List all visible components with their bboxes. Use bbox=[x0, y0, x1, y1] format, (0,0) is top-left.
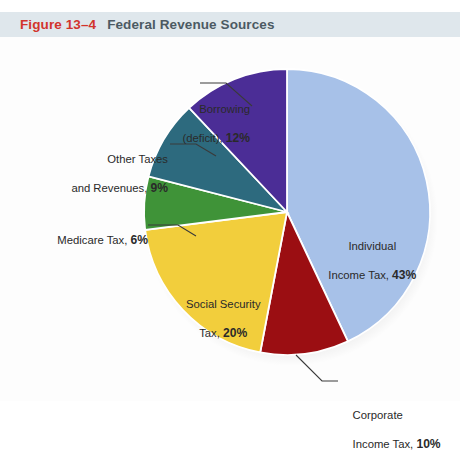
slice-label-individual-line2: Income Tax, bbox=[328, 269, 392, 281]
slice-value-borrowing: 12% bbox=[226, 131, 250, 145]
slice-label-individual-line1: Individual bbox=[348, 240, 396, 252]
pie-chart: Borrowing (deficit), 12% Other Taxes and… bbox=[0, 37, 460, 401]
slice-label-corporate-line1: Corporate bbox=[353, 409, 403, 421]
slice-label-social-security-line1: Social Security bbox=[186, 298, 261, 310]
slice-label-borrowing-line2: (deficit), bbox=[182, 132, 225, 144]
slice-label-other-taxes: Other Taxes and Revenues, 9% bbox=[18, 138, 168, 209]
figure-header: Figure 13–4 Federal Revenue Sources bbox=[0, 12, 460, 37]
slice-value-corporate: 10% bbox=[416, 437, 440, 451]
slice-label-other-taxes-line1: Other Taxes bbox=[107, 153, 168, 165]
slice-label-individual-income-tax: Individual Income Tax, 43% bbox=[310, 225, 422, 296]
slice-label-medicare-text: Medicare Tax, bbox=[57, 234, 130, 246]
figure-number: Figure 13–4 bbox=[20, 17, 96, 32]
slice-value-medicare: 6% bbox=[131, 233, 148, 247]
slice-value-other-taxes: 9% bbox=[151, 181, 168, 195]
slice-label-other-taxes-line2: and Revenues, bbox=[71, 182, 150, 194]
slice-label-medicare: Medicare Tax, 6% bbox=[8, 219, 148, 262]
slice-label-social-security-line2: Tax, bbox=[199, 327, 223, 339]
slice-value-individual: 43% bbox=[392, 268, 416, 282]
slice-label-borrowing-line1: Borrowing bbox=[199, 103, 250, 115]
slice-label-corporate-line2: Income Tax, bbox=[353, 438, 417, 450]
slice-label-corporate-income-tax: Corporate Income Tax, 10% bbox=[340, 394, 452, 454]
slice-value-social-security: 20% bbox=[223, 326, 247, 340]
page-title: Federal Revenue Sources bbox=[107, 17, 274, 32]
slice-label-social-security: Social Security Tax, 20% bbox=[162, 283, 272, 354]
